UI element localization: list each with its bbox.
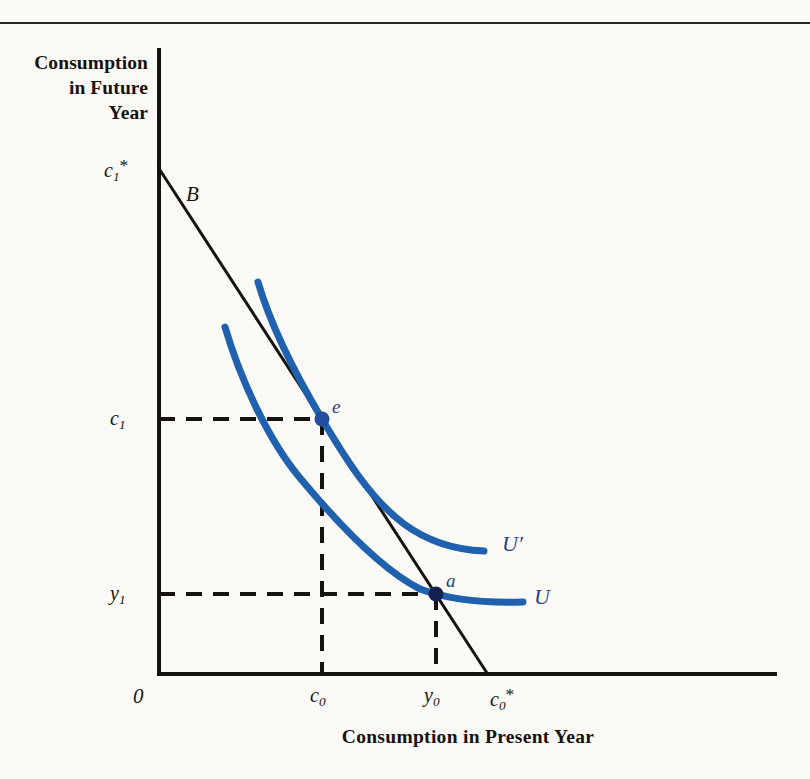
point-marker-a — [429, 587, 444, 602]
x-tick-label-c0: c0 — [310, 684, 325, 710]
point-label-e: e — [332, 396, 340, 418]
y-axis-title-line-3: Year — [6, 100, 148, 125]
curve-label-u-prime: U′ — [502, 531, 523, 557]
y-axis-title: Consumption in Future Year — [6, 50, 148, 125]
point-label-a: a — [446, 570, 456, 592]
x-tick-y0-base: y — [424, 684, 433, 706]
x-tick-c0-base: c — [310, 684, 319, 706]
origin-label: 0 — [133, 684, 144, 709]
budget-line-label: B — [186, 182, 199, 207]
y-axis-title-line-1: Consumption — [6, 50, 148, 75]
indifference-curve-u — [225, 327, 523, 602]
y-tick-c1star-star: * — [119, 155, 128, 175]
x-tick-label-y0: y0 — [424, 684, 439, 710]
curve-label-u: U — [534, 584, 550, 610]
y-tick-c1-base: c — [110, 407, 119, 429]
x-tick-y0-sub: 0 — [433, 694, 440, 709]
figure-canvas: Consumption in Future Year Consumption i… — [0, 0, 810, 779]
y-tick-label-c1star: c1* — [104, 155, 128, 185]
x-axis-title: Consumption in Present Year — [158, 726, 778, 748]
y-axis-title-line-2: in Future — [6, 75, 148, 100]
y-tick-y1-base: y — [110, 582, 119, 604]
y-tick-c1star-base: c — [104, 159, 113, 181]
point-marker-e — [315, 412, 330, 427]
y-tick-label-c1: c1 — [110, 407, 125, 433]
indifference-curve-u-prime — [258, 282, 484, 551]
x-tick-c0star-base: c — [490, 688, 499, 710]
x-tick-c0star-star: * — [505, 684, 514, 704]
y-tick-c1-sub: 1 — [119, 417, 126, 432]
y-tick-label-y1: y1 — [110, 582, 125, 608]
y-tick-y1-sub: 1 — [119, 592, 126, 607]
x-tick-label-c0star: c0* — [490, 684, 514, 714]
x-tick-c0-sub: 0 — [319, 694, 326, 709]
